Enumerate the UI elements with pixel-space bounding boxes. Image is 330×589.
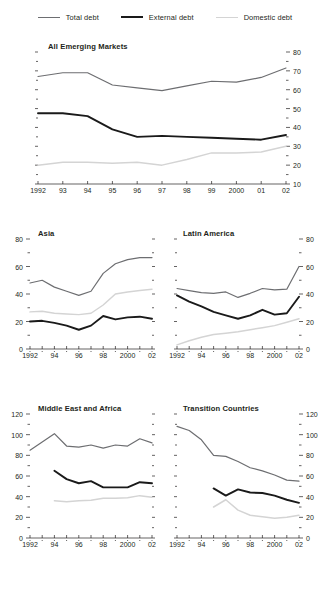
y-tick-label: 60	[306, 473, 314, 480]
x-tick-label: 02	[148, 541, 156, 548]
y-tick-label: 20	[293, 162, 301, 169]
x-tick-label: 96	[75, 352, 83, 359]
y-tick-label: 70	[293, 67, 301, 74]
y-tick-label: 80	[293, 49, 301, 56]
y-tick-label: 60	[0, 473, 23, 480]
panel-middle-east-and-africa: Middle East and Africa 020406080100120 1…	[0, 400, 165, 560]
x-tick-label: 2000	[229, 187, 245, 194]
x-tick-label: 93	[59, 187, 67, 194]
panel-all-emerging-markets: All Emerging Markets 1020304050607080 19…	[0, 36, 330, 208]
x-tick-label: 95	[108, 187, 116, 194]
x-tick-label: 96	[133, 187, 141, 194]
x-tick-label: 97	[158, 187, 166, 194]
plot-area-latin-america	[177, 239, 299, 349]
legend-item-total-debt: Total debt	[38, 13, 99, 22]
y-tick-label: 80	[306, 452, 314, 459]
plot-svg-asia	[30, 239, 152, 349]
plot-area-asia	[30, 239, 152, 349]
y-tick-label: 120	[306, 411, 318, 418]
legend-label-total-debt: Total debt	[66, 13, 99, 22]
x-tick-label: 02	[295, 352, 303, 359]
y-tick-label: 40	[306, 291, 314, 298]
x-tick-label: 2000	[120, 541, 136, 548]
x-tick-label: 94	[50, 541, 58, 548]
panel-asia: Asia 020406080 1992949698200002	[0, 225, 165, 375]
y-tick-label: 20	[0, 514, 23, 521]
y-tick-label: 60	[0, 263, 23, 270]
y-tick-label: 0	[0, 535, 23, 542]
x-tick-label: 01	[257, 187, 265, 194]
legend-swatch-external-debt	[121, 16, 143, 18]
series-line-total	[177, 267, 299, 298]
legend-swatch-domestic-debt	[216, 17, 238, 18]
y-tick-label: 80	[306, 236, 314, 243]
plot-area-middle-east-and-africa	[30, 414, 152, 538]
plot-svg-all-emerging-markets	[38, 52, 286, 184]
plot-svg-transition-countries	[177, 414, 299, 538]
y-tick-label: 120	[0, 411, 23, 418]
y-tick-label: 0	[306, 346, 310, 353]
x-tick-label: 98	[183, 187, 191, 194]
y-tick-label: 10	[293, 181, 301, 188]
x-tick-label: 99	[208, 187, 216, 194]
panel-title-all-emerging-markets: All Emerging Markets	[48, 42, 128, 51]
debt-composition-figure: Total debt External debt Domestic debt A…	[0, 0, 330, 589]
y-tick-label: 0	[0, 346, 23, 353]
legend-swatch-total-debt	[38, 17, 60, 18]
series-line-domestic	[54, 496, 152, 502]
series-line-domestic	[38, 146, 286, 165]
x-tick-label: 02	[282, 187, 290, 194]
x-tick-label: 2000	[267, 352, 283, 359]
y-tick-label: 20	[306, 318, 314, 325]
x-tick-label: 98	[99, 541, 107, 548]
y-tick-label: 40	[293, 124, 301, 131]
series-line-domestic	[214, 500, 299, 519]
panel-transition-countries: Transition Countries 020406080100120 199…	[165, 400, 330, 560]
x-tick-label: 94	[84, 187, 92, 194]
series-line-total	[38, 68, 286, 91]
plot-svg-latin-america	[177, 239, 299, 349]
series-line-total	[30, 258, 152, 296]
legend-item-domestic-debt: Domestic debt	[216, 13, 293, 22]
plot-svg-middle-east-and-africa	[30, 414, 152, 538]
x-tick-label: 96	[75, 541, 83, 548]
x-tick-label: 02	[148, 352, 156, 359]
y-tick-label: 0	[306, 535, 310, 542]
plot-area-all-emerging-markets	[38, 52, 286, 184]
panel-title-latin-america: Latin America	[183, 229, 234, 238]
y-tick-label: 40	[0, 291, 23, 298]
series-line-domestic	[30, 289, 152, 314]
chart-legend: Total debt External debt Domestic debt	[0, 8, 330, 26]
x-tick-label: 1992	[169, 352, 185, 359]
x-tick-label: 1992	[30, 187, 46, 194]
legend-item-external-debt: External debt	[121, 13, 194, 22]
panel-latin-america: Latin America 020406080 1992949698200002	[165, 225, 330, 375]
y-tick-label: 20	[0, 318, 23, 325]
x-tick-label: 02	[295, 541, 303, 548]
x-tick-label: 96	[222, 352, 230, 359]
y-tick-label: 30	[293, 143, 301, 150]
panel-title-transition-countries: Transition Countries	[183, 404, 259, 413]
y-tick-label: 40	[306, 493, 314, 500]
panel-title-middle-east-and-africa: Middle East and Africa	[38, 404, 121, 413]
series-line-domestic	[177, 319, 299, 345]
x-tick-label: 2000	[267, 541, 283, 548]
x-tick-label: 1992	[22, 541, 38, 548]
x-tick-label: 1992	[169, 541, 185, 548]
panel-title-asia: Asia	[38, 229, 54, 238]
y-tick-label: 60	[293, 86, 301, 93]
y-tick-label: 100	[306, 431, 318, 438]
x-tick-label: 98	[246, 352, 254, 359]
legend-label-domestic-debt: Domestic debt	[244, 13, 293, 22]
series-line-external	[38, 113, 286, 139]
y-tick-label: 80	[0, 236, 23, 243]
y-tick-label: 40	[0, 493, 23, 500]
y-tick-label: 80	[0, 452, 23, 459]
series-line-external	[30, 316, 152, 330]
x-tick-label: 98	[99, 352, 107, 359]
x-tick-label: 2000	[120, 352, 136, 359]
x-tick-label: 96	[222, 541, 230, 548]
y-tick-label: 60	[306, 263, 314, 270]
y-tick-label: 50	[293, 105, 301, 112]
series-line-total	[30, 434, 152, 451]
